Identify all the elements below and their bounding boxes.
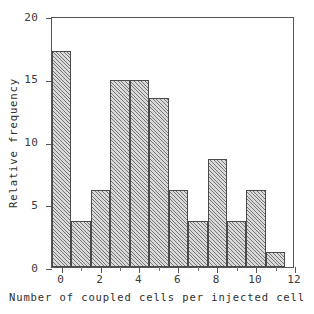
x-tick-label: 10: [248, 274, 262, 285]
x-axis-tick-labels: 024681012: [51, 274, 294, 290]
x-tick-mark-minor: [237, 267, 238, 271]
y-axis-title: Relative frequency: [7, 63, 19, 223]
x-tick-label: 4: [135, 274, 142, 285]
histogram-bar: [266, 252, 285, 267]
histogram-bar: [52, 51, 71, 267]
x-axis-title: Number of coupled cells per injected cel…: [0, 291, 314, 303]
x-tick-mark-minor: [198, 267, 199, 271]
x-tick-mark-minor: [120, 267, 121, 271]
y-tick-label: 20: [24, 12, 38, 23]
histogram-bar: [208, 159, 227, 267]
x-tick-label: 6: [174, 274, 181, 285]
histogram-bar: [149, 98, 168, 267]
y-tick-label: 15: [24, 74, 38, 85]
x-tick-mark-minor: [159, 267, 160, 271]
y-tick-label: 0: [31, 263, 38, 274]
y-tick-mark: [46, 18, 52, 19]
histogram-bar: [110, 80, 129, 267]
histogram-bar: [246, 190, 265, 267]
x-tick-label: 12: [287, 274, 301, 285]
x-tick-label: 2: [96, 274, 103, 285]
y-tick-label: 10: [24, 137, 38, 148]
x-tick-mark-minor: [276, 267, 277, 271]
histogram-bar: [227, 221, 246, 267]
x-tick-mark-minor: [81, 267, 82, 271]
y-tick-mark: [46, 81, 52, 82]
histogram-bar: [188, 221, 207, 267]
histogram-bar: [169, 190, 188, 267]
histogram-bar: [91, 190, 110, 267]
histogram-bar: [71, 221, 90, 267]
x-tick-label: 8: [213, 274, 220, 285]
bars-layer: [52, 18, 293, 267]
y-tick-mark: [46, 206, 52, 207]
y-tick-mark: [46, 144, 52, 145]
histogram-figure: 05101520 024681012 Number of coupled cel…: [0, 0, 314, 314]
y-tick-mark: [46, 269, 52, 270]
histogram-bar: [130, 80, 149, 267]
x-tick-label: 0: [57, 274, 64, 285]
plot-area: [51, 17, 294, 268]
y-tick-label: 5: [31, 200, 38, 211]
